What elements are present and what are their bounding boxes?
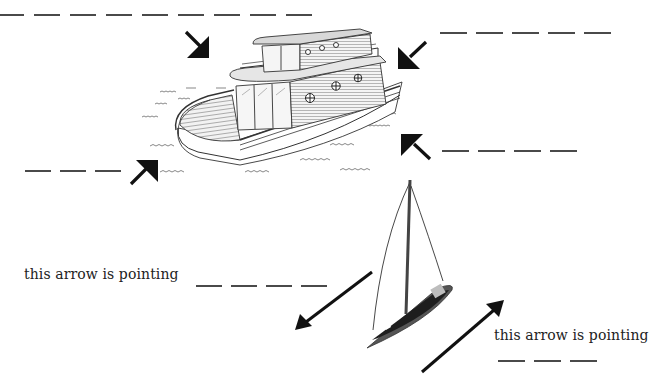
sailboat-illustration bbox=[367, 180, 452, 348]
direction-worksheet: this arrow is pointing this arrow is poi… bbox=[0, 0, 672, 392]
arrow-up-left-icon bbox=[401, 134, 430, 159]
arrow-down-left-icon bbox=[398, 42, 426, 69]
houseboat-illustration bbox=[142, 29, 402, 172]
arrow-up-right-icon bbox=[131, 160, 158, 184]
arrow-down-right-icon bbox=[186, 32, 209, 58]
arrow-down-left-icon bbox=[295, 272, 372, 330]
arrow-up-right-icon bbox=[422, 300, 504, 372]
illustration-layer bbox=[0, 0, 672, 392]
